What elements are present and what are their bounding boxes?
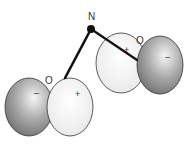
right-negative-sign: – (165, 52, 170, 62)
left-positive-lobe (47, 78, 93, 136)
left-negative-sign: – (34, 88, 39, 98)
left-negative-lobe (5, 78, 53, 136)
molecular-orbital-diagram: – + O + – O N (0, 0, 189, 145)
left-oxygen-label: O (45, 75, 53, 86)
nitrogen-atom (87, 25, 95, 33)
left-positive-sign: + (75, 89, 80, 99)
left-orbital: – + O (5, 75, 93, 136)
right-negative-lobe (137, 36, 183, 94)
right-oxygen-label: O (136, 35, 144, 46)
left-bond (65, 29, 91, 78)
nitrogen-label: N (88, 11, 95, 22)
